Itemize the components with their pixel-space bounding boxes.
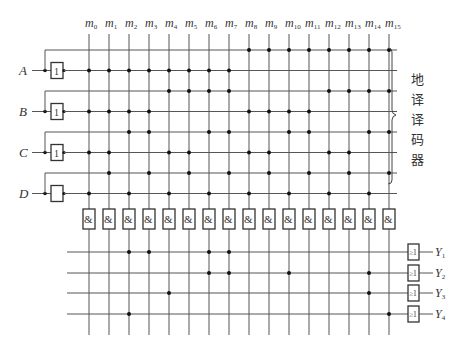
connection-dot [227, 69, 231, 73]
column-label-base: m [285, 16, 294, 30]
connection-dot [187, 89, 191, 93]
and-gate-label: & [104, 213, 113, 225]
input-label-D: D [18, 186, 29, 201]
column-label-base: m [85, 16, 94, 30]
connection-dot [247, 48, 251, 52]
connection-dot [327, 151, 331, 155]
column-label-base: m [305, 16, 314, 30]
connection-dot [207, 69, 211, 73]
decoder-label-char: 译 [411, 92, 424, 107]
column-label-m12: m12 [325, 16, 341, 31]
buffer-label: 1 [54, 66, 59, 77]
and-gate-label: & [304, 213, 313, 225]
connection-dot [147, 110, 151, 114]
column-label-m1: m1 [105, 16, 118, 31]
connection-dot [387, 312, 391, 316]
connection-dot [207, 192, 211, 196]
connection-dot [267, 48, 271, 52]
output-label-Y2: Y2 [435, 266, 446, 281]
connection-dot [127, 192, 131, 196]
column-label-base: m [265, 16, 274, 30]
connection-dot [87, 69, 91, 73]
connection-dot [167, 291, 171, 295]
or-gate-label: ≥1 [409, 248, 417, 257]
connection-dot [107, 171, 111, 175]
input-label-C: C [19, 145, 28, 160]
column-label-m8: m8 [245, 16, 258, 31]
connection-dot [107, 151, 111, 155]
or-gate-label: ≥1 [409, 269, 417, 278]
connection-dot [147, 130, 151, 134]
column-label-sub: 15 [394, 23, 402, 31]
complement-line [45, 50, 397, 71]
connection-dot [347, 151, 351, 155]
column-label-sub: 14 [374, 23, 382, 31]
column-label-base: m [125, 16, 134, 30]
column-label-sub: 10 [294, 23, 302, 31]
input-A: A1 [18, 48, 397, 79]
connection-dot [227, 89, 231, 93]
connection-dot [267, 151, 271, 155]
column-label-base: m [325, 16, 334, 30]
connection-dot [87, 151, 91, 155]
column-label-m14: m14 [365, 16, 381, 31]
connection-dot [227, 250, 231, 254]
connection-dot [287, 271, 291, 275]
connection-dot [187, 151, 191, 155]
column-label-m15: m15 [385, 16, 401, 31]
and-gate-label: & [144, 213, 153, 225]
input-D: D [18, 171, 397, 202]
connection-dot [267, 110, 271, 114]
connection-dot [327, 48, 331, 52]
connection-dot [167, 192, 171, 196]
decoder-label-char: 译 [411, 112, 424, 127]
and-gate-label: & [284, 213, 293, 225]
column-wires [89, 34, 389, 335]
connection-dot [207, 271, 211, 275]
output-label-sub: 1 [442, 252, 446, 260]
or-gate-label: ≥1 [409, 289, 417, 298]
connection-dot [247, 110, 251, 114]
column-label-m9: m9 [265, 16, 278, 31]
connection-dot [107, 69, 111, 73]
connection-dot [287, 110, 291, 114]
column-label-base: m [245, 16, 254, 30]
decoder-label-char: 地 [411, 72, 424, 87]
connection-dot [287, 130, 291, 134]
column-label-m0: m0 [85, 16, 98, 31]
column-label-sub: 3 [154, 23, 158, 31]
column-label-m4: m4 [165, 16, 178, 31]
column-label-base: m [365, 16, 374, 30]
connection-dot [127, 110, 131, 114]
connection-dot [327, 192, 331, 196]
output-label-Y1: Y1 [435, 245, 446, 260]
connection-dot [167, 151, 171, 155]
column-label-sub: 4 [174, 23, 178, 31]
column-label-sub: 2 [134, 23, 138, 31]
connection-dot [287, 192, 291, 196]
connection-dot [307, 48, 311, 52]
column-label-base: m [145, 16, 154, 30]
output-label-sub: 4 [442, 314, 446, 322]
connection-dot [387, 89, 391, 93]
connection-dot [307, 130, 311, 134]
output-label-sub: 3 [442, 293, 446, 301]
and-gates: &&&&&&&&&&&&&&&& [83, 209, 395, 229]
column-label-base: m [205, 16, 214, 30]
connection-dot [147, 250, 151, 254]
or-gate-label: ≥1 [409, 310, 417, 319]
output-label-Y3: Y3 [435, 286, 446, 301]
connection-dot [347, 48, 351, 52]
decoder-label-char: 器 [411, 152, 424, 167]
column-label-m11: m11 [305, 16, 321, 31]
column-label-sub: 0 [94, 23, 98, 31]
column-label-m3: m3 [145, 16, 158, 31]
column-label-m10: m10 [285, 16, 301, 31]
connection-dot [367, 89, 371, 93]
connection-dot [167, 89, 171, 93]
and-gate-label: & [224, 213, 233, 225]
connection-dot [207, 250, 211, 254]
connection-dot [107, 110, 111, 114]
column-label-base: m [105, 16, 114, 30]
column-label-sub: 8 [254, 23, 258, 31]
